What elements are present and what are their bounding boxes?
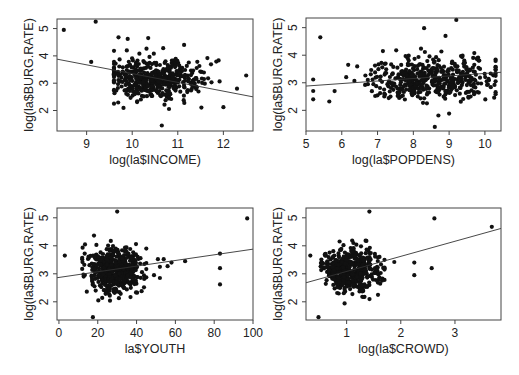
x-tick-label: 60 — [169, 326, 183, 340]
data-point — [341, 265, 345, 269]
data-point — [94, 289, 98, 293]
data-point — [373, 70, 377, 74]
data-point — [323, 252, 327, 256]
data-point — [469, 78, 473, 82]
data-point — [139, 88, 143, 92]
data-point — [332, 268, 336, 272]
data-point — [332, 277, 336, 281]
data-point — [328, 251, 332, 255]
data-point — [432, 83, 436, 87]
data-point — [383, 62, 387, 66]
data-point — [369, 251, 373, 255]
data-point — [195, 60, 199, 64]
data-point — [324, 265, 328, 269]
outlier-point — [62, 28, 66, 32]
outlier-point — [63, 254, 67, 258]
data-point — [338, 239, 342, 243]
data-point — [177, 84, 181, 88]
data-point — [436, 90, 440, 94]
data-point — [389, 86, 393, 90]
y-axis-label: log(la$BURG.RATE) — [271, 18, 285, 132]
x-tick-label: 20 — [91, 326, 105, 340]
data-point — [440, 69, 444, 73]
data-point — [147, 55, 151, 59]
outlier-point — [166, 264, 170, 268]
panel-popdens: 5678910log(la$POPDENS)2345log(la$BURG.RA… — [271, 18, 501, 167]
data-point — [150, 94, 154, 98]
data-point — [341, 243, 345, 247]
y-tick-label: 5 — [37, 214, 51, 221]
data-point — [354, 243, 358, 247]
data-point — [83, 252, 87, 256]
data-point — [343, 250, 347, 254]
data-point — [319, 268, 323, 272]
data-point — [356, 262, 360, 266]
data-point — [425, 101, 429, 105]
data-point — [345, 284, 349, 288]
data-point — [334, 258, 338, 262]
data-point — [336, 251, 340, 255]
outlier-point — [494, 65, 498, 69]
data-point — [167, 107, 171, 111]
panel-crowd: 123log(la$CROWD)2345log(la$BURG.RATE) — [271, 207, 501, 356]
y-tick-label: 3 — [37, 270, 51, 277]
data-point — [144, 267, 148, 271]
data-point — [122, 286, 126, 290]
data-point — [449, 80, 453, 84]
data-point — [376, 281, 380, 285]
data-point — [134, 252, 138, 256]
data-point — [197, 80, 201, 84]
y-tick-label: 3 — [37, 80, 51, 87]
data-point — [411, 66, 415, 70]
x-tick-label: 8 — [410, 137, 417, 151]
plot-frame — [57, 208, 253, 320]
data-point — [197, 64, 201, 68]
data-point — [128, 78, 132, 82]
data-point — [182, 43, 186, 47]
data-point — [403, 97, 407, 101]
data-point — [380, 65, 384, 69]
data-point — [342, 275, 346, 279]
data-point — [494, 71, 498, 75]
y-tick-label: 4 — [37, 52, 51, 59]
data-point — [376, 265, 380, 269]
x-tick-label: 6 — [338, 137, 345, 151]
data-point — [342, 291, 346, 295]
outlier-point — [162, 257, 166, 261]
data-point — [453, 62, 457, 66]
outlier-point — [158, 265, 162, 269]
data-point — [340, 260, 344, 264]
data-point — [98, 263, 102, 267]
y-axis: 2345log(la$BURG.RATE) — [271, 207, 306, 321]
x-axis: 020406080100la$YOUTH — [56, 320, 264, 356]
data-point — [166, 63, 170, 67]
data-point — [350, 239, 354, 243]
data-point — [390, 72, 394, 76]
data-point — [146, 65, 150, 69]
data-point — [360, 283, 364, 287]
data-point — [150, 73, 154, 77]
y-tick-label: 4 — [37, 242, 51, 249]
data-point — [119, 292, 123, 296]
data-point — [320, 261, 324, 265]
outlier-point — [367, 210, 371, 214]
data-point — [373, 255, 377, 259]
y-tick-label: 4 — [286, 52, 300, 59]
data-point — [115, 290, 119, 294]
data-point — [164, 68, 168, 72]
data-point — [137, 52, 141, 56]
y-axis-label: log(la$BURG.RATE) — [271, 207, 285, 321]
data-point — [461, 70, 465, 74]
x-axis: 5678910log(la$POPDENS) — [303, 131, 492, 167]
x-tick-label: 10 — [126, 137, 140, 151]
data-point — [112, 88, 116, 92]
data-point — [430, 69, 434, 73]
data-point — [158, 63, 162, 67]
data-point — [117, 64, 121, 68]
data-point — [373, 64, 377, 68]
data-point — [439, 49, 443, 53]
data-point — [142, 277, 146, 281]
data-point — [140, 289, 144, 293]
outlier-point — [218, 266, 222, 270]
outlier-point — [376, 293, 380, 297]
